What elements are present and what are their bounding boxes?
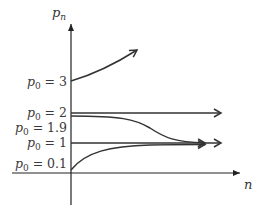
x-axis-label: n [244, 177, 252, 192]
curve-p0-0.1 [71, 145, 205, 171]
y-axis-label: pn [52, 5, 66, 22]
sequence-diagram: pn n p0 = 3 p0 = 2 p0 = 1.9 p0 = 1 p0 = … [0, 0, 264, 211]
curve-p0-1.9 [71, 116, 205, 143]
label-p0-1: p0 = 1 [27, 135, 67, 152]
label-p0-0.1: p0 = 0.1 [15, 156, 67, 173]
label-p0-3: p0 = 3 [27, 74, 67, 91]
curve-p0-3 [71, 50, 137, 81]
